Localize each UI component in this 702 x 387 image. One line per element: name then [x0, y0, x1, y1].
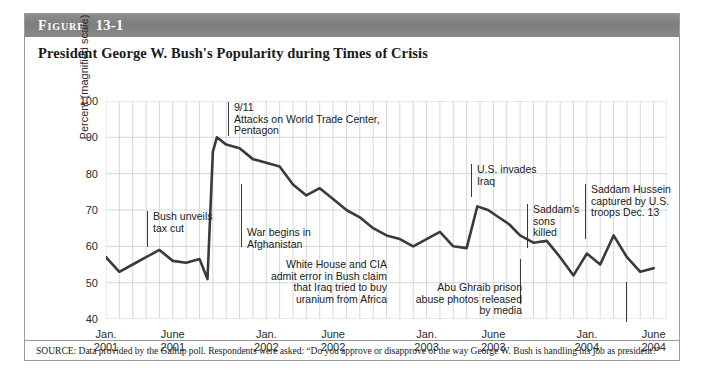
source-note: SOURCE: Data provided by the Gallup poll…	[36, 345, 671, 356]
annotation-abu-ghraib: Abu Ghraib prison abuse photos released …	[416, 282, 522, 317]
page-title: President George W. Bush's Popularity du…	[38, 45, 428, 62]
annotation-september-11: 9/11 Attacks on World Trade Center, Pent…	[234, 102, 380, 137]
y-axis-tick-100: 100	[80, 95, 98, 107]
y-axis-tick-70: 70	[86, 204, 98, 216]
annotation-war-afghanistan: War begins in Afghanistan	[247, 227, 311, 250]
annotation-us-invades-iraq: U.S. invades Iraq	[477, 164, 537, 187]
annotation-rule-saddams-sons-killed	[527, 204, 528, 248]
figure-header-bar: Figure 13-1	[25, 14, 679, 37]
annotation-rule-september-11	[228, 102, 229, 136]
y-axis-tick-50: 50	[86, 277, 98, 289]
annotation-saddam-captured: Saddam Hussein captured by U.S. troops D…	[591, 184, 671, 219]
figure-number: 13-1	[85, 17, 124, 34]
figure-container: Figure 13-1 President George W. Bush's P…	[24, 13, 680, 361]
annotation-saddams-sons-killed: Saddam's sons killed	[533, 204, 579, 239]
y-axis-tick-60: 60	[86, 240, 98, 252]
y-axis-title: Percent (magnified scale)	[78, 0, 90, 187]
y-axis-tick-90: 90	[86, 131, 98, 143]
source-divider	[25, 340, 679, 341]
annotation-rule-war-afghanistan	[241, 184, 242, 247]
annotation-rule-bush-tax-cut	[147, 211, 148, 247]
annotation-white-house-cia-uranium: White House and CIA admit error in Bush …	[271, 259, 387, 305]
chart-plot-area: Percent (magnified scale) 40506070809010…	[106, 101, 667, 319]
annotation-rule-us-invades-iraq	[471, 164, 472, 197]
annotation-bush-tax-cut: Bush unveils tax cut	[153, 211, 213, 234]
y-axis-tick-80: 80	[86, 168, 98, 180]
y-axis-tick-40: 40	[86, 313, 98, 325]
annotation-rule-abu-ghraib	[626, 282, 627, 322]
annotation-rule-saddam-captured	[585, 184, 586, 239]
figure-label: Figure	[25, 18, 85, 34]
